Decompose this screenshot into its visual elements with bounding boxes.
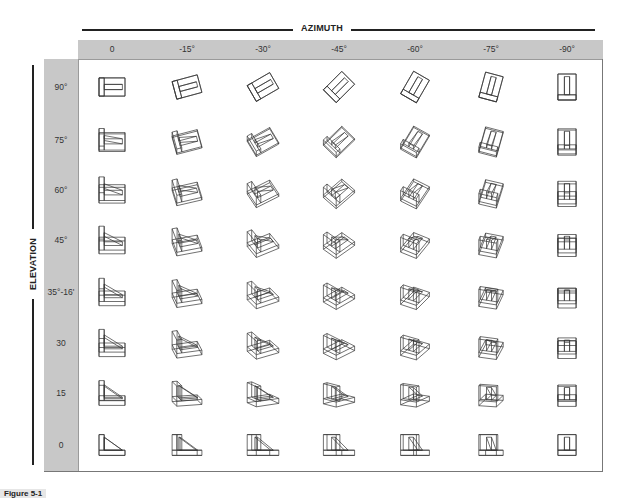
view-drawing-cell [172,75,202,99]
view-drawing-cell [558,74,576,100]
view-drawing-cell [323,179,354,209]
view-drawing-cell [99,226,125,254]
view-drawing-cell [172,179,202,206]
view-drawing-cell [99,177,125,203]
view-drawing-cell [401,126,430,158]
view-drawing-cell [172,381,202,406]
view-drawing-cell [479,287,503,310]
view-drawing-cell [401,335,430,360]
view-drawing-cell [558,435,576,456]
view-drawing-cell [323,232,354,258]
view-drawing-cell [247,332,279,359]
view-drawing-cell [247,230,279,258]
view-drawing-cell [247,435,279,456]
view-drawing-cell [172,435,202,456]
view-drawing-cell [558,288,576,308]
view-drawing-cell [479,337,503,360]
view-drawing-cell [401,285,430,310]
view-drawing-cell [247,73,279,102]
view-drawing-cell [401,71,430,103]
view-drawing-cell [479,233,503,258]
view-drawing-cell [323,126,354,158]
view-drawing-cell [401,233,430,259]
view-drawing-cell [323,334,354,360]
view-drawing-cell [323,71,354,102]
view-drawing-cell [247,128,279,157]
view-drawing-cell [323,435,354,456]
view-drawing-cell [172,331,202,359]
view-drawing-cell [479,72,503,102]
view-drawing-cell [558,235,576,257]
view-drawing-cell [99,278,125,305]
view-drawing-cell [479,384,503,407]
view-drawing-cell [172,280,202,308]
view-drawing-cell [558,338,576,359]
view-drawing-cell [323,383,354,407]
view-drawing-cell [323,283,354,310]
view-drawing-cell [172,130,202,155]
view-drawing-cell [401,179,430,209]
view-drawing-cell [172,228,202,256]
figure-caption: Figure 5-1 [0,489,46,498]
view-drawing-cell [401,435,430,456]
view-drawing-cell [558,385,576,406]
view-drawing-cell [479,435,503,456]
view-drawing-cell [99,129,125,152]
view-drawing-cell [558,181,576,206]
view-drawing-cell [558,129,576,155]
view-drawing-cell [99,78,125,96]
view-drawing-cell [99,329,125,356]
drawing-grid [0,0,627,498]
view-drawing-cell [247,281,279,309]
view-drawing-cell [479,127,503,157]
view-drawing-cell [247,180,279,208]
view-drawing-cell [401,384,430,408]
view-drawing-cell [99,435,125,456]
view-drawing-cell [247,382,279,407]
view-drawing-cell [99,381,125,406]
view-drawing-cell [479,180,503,208]
